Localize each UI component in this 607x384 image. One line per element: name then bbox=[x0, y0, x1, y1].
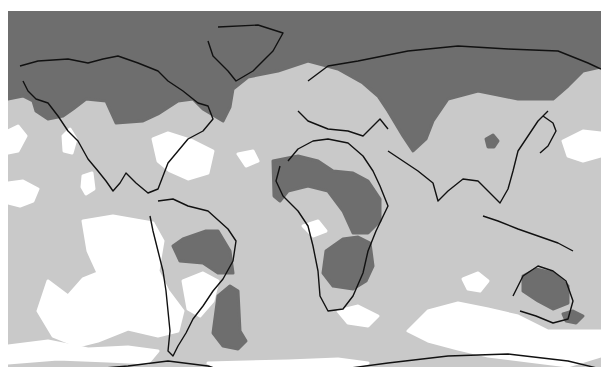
low-region-pacific-spot-2 bbox=[82, 173, 94, 194]
high-region-china-spot bbox=[486, 135, 498, 147]
world-map bbox=[8, 11, 601, 367]
map-canvas bbox=[8, 11, 601, 367]
